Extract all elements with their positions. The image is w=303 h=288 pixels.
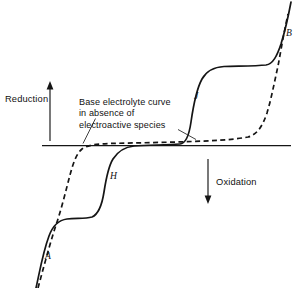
annotation-line-3: electroactive species: [79, 120, 166, 130]
curve-label-b: B: [286, 27, 292, 38]
voltammogram-svg: Reduction Oxidation Base electrolyte cur…: [0, 0, 303, 288]
reduction-label: Reduction: [5, 94, 48, 104]
curve-label-a: A: [44, 250, 51, 261]
curve-label-h: H: [109, 170, 118, 181]
oxidation-label: Oxidation: [216, 177, 257, 187]
curve-label-j: J: [194, 90, 199, 101]
annotation-line-1: Base electrolyte curve: [79, 97, 171, 107]
annotation-line-2: in absence of: [79, 108, 135, 118]
voltammogram-figure: Reduction Oxidation Base electrolyte cur…: [0, 0, 303, 288]
